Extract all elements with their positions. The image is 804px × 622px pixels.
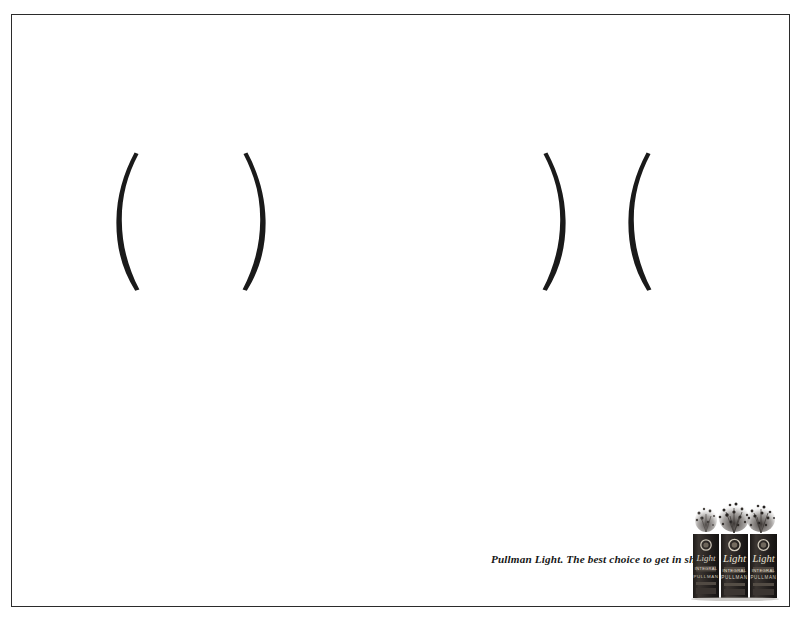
svg-text:Light: Light — [751, 553, 775, 564]
paren-group-wide — [118, 152, 286, 292]
product-pack-2: Light INTEGRAL PULLMAN — [721, 534, 748, 598]
grain-spray-group — [695, 503, 775, 534]
advertisement-page: Pullman Light. The best choice to get in… — [0, 0, 804, 622]
product-pack-1: Light INTEGRAL PULLMAN — [693, 534, 719, 598]
paren-group-wide-art — [118, 152, 286, 292]
svg-text:INTEGRAL: INTEGRAL — [695, 566, 718, 571]
svg-text:PULLMAN: PULLMAN — [721, 575, 748, 580]
product-packshot: Light INTEGRAL PULLMAN Light INTEGRAL PU… — [689, 498, 781, 601]
paren-open-icon — [628, 153, 651, 291]
grain-spray-right — [747, 505, 775, 533]
paren-close-icon — [543, 153, 566, 291]
product-pack-3: Light INTEGRAL PULLMAN — [750, 534, 777, 598]
paren-group-slim-art — [530, 152, 664, 292]
paren-open-icon — [116, 153, 139, 291]
paren-group-slim — [530, 152, 664, 292]
packshot-shadow — [691, 597, 779, 601]
svg-text:PULLMAN: PULLMAN — [750, 575, 776, 580]
svg-text:INTEGRAL: INTEGRAL — [723, 568, 747, 573]
svg-text:Light: Light — [722, 552, 747, 564]
svg-text:INTEGRAL: INTEGRAL — [752, 568, 776, 573]
product-packshot-art: Light INTEGRAL PULLMAN Light INTEGRAL PU… — [689, 498, 781, 601]
ad-border-frame — [11, 14, 790, 607]
grain-spray-center — [719, 503, 749, 534]
pack-row: Light INTEGRAL PULLMAN Light INTEGRAL PU… — [693, 534, 777, 598]
grain-spray-left — [695, 508, 717, 532]
svg-text:PULLMAN: PULLMAN — [694, 574, 719, 579]
paren-close-icon — [243, 153, 266, 291]
svg-text:Light: Light — [695, 553, 716, 563]
tagline: Pullman Light. The best choice to get in… — [491, 552, 691, 566]
